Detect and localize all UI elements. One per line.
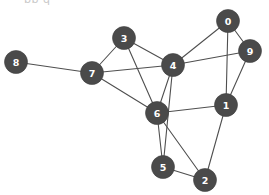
node-circle[interactable]: [146, 102, 169, 125]
graph-node-1[interactable]: 1: [215, 94, 238, 117]
node-circle[interactable]: [215, 94, 238, 117]
node-circle[interactable]: [113, 27, 136, 50]
graph-edge: [226, 21, 228, 105]
node-circle[interactable]: [162, 54, 185, 77]
graph-node-4[interactable]: 4: [162, 54, 185, 77]
graph-node-3[interactable]: 3: [113, 27, 136, 50]
node-circle[interactable]: [152, 156, 175, 179]
graph-node-0[interactable]: 0: [217, 10, 240, 33]
node-circle[interactable]: [217, 10, 240, 33]
graph-node-9[interactable]: 9: [239, 40, 262, 63]
graph-node-2[interactable]: 2: [194, 169, 217, 192]
graph-canvas: 0123456789: [0, 0, 269, 195]
node-circle[interactable]: [194, 169, 217, 192]
graph-node-6[interactable]: 6: [146, 102, 169, 125]
graph-edge: [124, 38, 157, 113]
node-circle[interactable]: [5, 51, 28, 74]
network-graph-figure: 0123456789 bb q: [0, 0, 269, 195]
graph-node-8[interactable]: 8: [5, 51, 28, 74]
node-layer: 0123456789: [5, 10, 262, 192]
node-circle[interactable]: [81, 62, 104, 85]
node-circle[interactable]: [239, 40, 262, 63]
graph-edge: [92, 65, 173, 73]
graph-node-5[interactable]: 5: [152, 156, 175, 179]
graph-node-7[interactable]: 7: [81, 62, 104, 85]
